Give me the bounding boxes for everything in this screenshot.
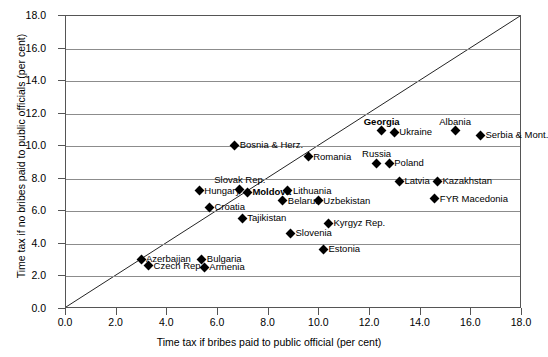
x-tick-mark [166, 308, 167, 315]
data-point-label: Slovenia [295, 228, 331, 238]
data-point-label: Poland [394, 158, 424, 168]
x-axis-title: Time tax if bribes paid to public offici… [0, 336, 538, 348]
x-tick-label: 16.0 [450, 316, 490, 328]
y-tick-label: 0.0 [6, 302, 46, 314]
data-point-label: Romania [313, 152, 351, 162]
data-point-label: Russia [362, 149, 391, 159]
y-tick-mark [58, 80, 66, 81]
gridline [66, 276, 520, 277]
reference-line-45deg [66, 16, 520, 307]
x-tick-mark [318, 308, 319, 315]
data-point-label: Tajikistan [247, 213, 286, 223]
y-tick-mark [58, 113, 66, 114]
data-point-label: Armenia [209, 262, 244, 272]
data-point-label: Ukraine [399, 127, 432, 137]
y-tick-mark [58, 48, 66, 49]
data-point-label: Serbia & Mont. [485, 130, 548, 140]
y-tick-mark [58, 275, 66, 276]
gridline [66, 49, 520, 50]
x-tick-label: 10.0 [298, 316, 338, 328]
x-tick-mark [268, 308, 269, 315]
y-tick-mark [58, 15, 66, 16]
data-point-label: Kyrgyz Rep. [333, 218, 385, 228]
data-point-label: Slovak Rep. [214, 175, 265, 185]
data-point-label: FYR Macedonia [440, 194, 508, 204]
gridline [66, 114, 520, 115]
y-tick-label: 14.0 [6, 74, 46, 86]
gridline [66, 211, 520, 212]
x-tick-mark [217, 308, 218, 315]
y-tick-mark [58, 210, 66, 211]
y-tick-label: 18.0 [6, 9, 46, 21]
x-tick-label: 18.0 [501, 316, 541, 328]
y-tick-label: 4.0 [6, 237, 46, 249]
x-tick-label: 0.0 [45, 316, 85, 328]
x-tick-label: 4.0 [146, 316, 186, 328]
y-tick-label: 10.0 [6, 139, 46, 151]
x-tick-mark [420, 308, 421, 315]
x-tick-label: 6.0 [197, 316, 237, 328]
data-point-label: Georgia [364, 117, 400, 127]
data-point-label: Albania [439, 117, 471, 127]
x-tick-label: 14.0 [400, 316, 440, 328]
x-tick-mark [521, 308, 522, 315]
y-tick-mark [58, 145, 66, 146]
plot-area [65, 15, 521, 308]
y-tick-label: 2.0 [6, 269, 46, 281]
y-tick-label: 6.0 [6, 204, 46, 216]
y-tick-label: 16.0 [6, 42, 46, 54]
data-point-label: Kazakhstan [442, 176, 492, 186]
x-tick-label: 12.0 [349, 316, 389, 328]
data-point-label: Estonia [328, 244, 360, 254]
data-point-label: Czech Rep. [154, 261, 204, 271]
y-tick-mark [58, 178, 66, 179]
y-tick-label: 8.0 [6, 172, 46, 184]
y-tick-mark [58, 243, 66, 244]
data-point-label: Latvia [404, 176, 429, 186]
x-tick-mark [369, 308, 370, 315]
data-point-label: Uzbekistan [323, 196, 370, 206]
data-point-label: Croatia [214, 202, 245, 212]
x-tick-label: 8.0 [248, 316, 288, 328]
data-point-label: Bosnia & Herz. [240, 140, 303, 150]
gridline [66, 244, 520, 245]
y-tick-label: 12.0 [6, 107, 46, 119]
x-tick-mark [65, 308, 66, 315]
gridline [66, 81, 520, 82]
x-tick-label: 2.0 [96, 316, 136, 328]
x-tick-mark [470, 308, 471, 315]
x-tick-mark [116, 308, 117, 315]
